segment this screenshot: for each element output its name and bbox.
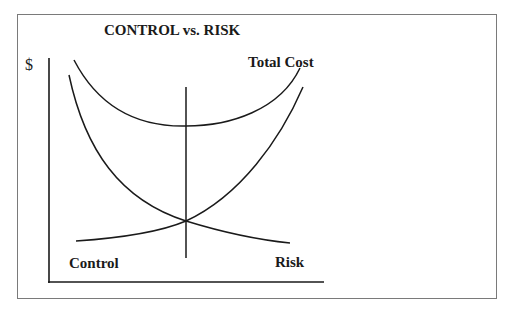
risk-curve — [69, 75, 290, 243]
diagram-title: CONTROL vs. RISK — [104, 22, 241, 38]
control-label: Control — [69, 255, 119, 271]
risk-label: Risk — [275, 254, 305, 270]
control-curve — [76, 87, 303, 241]
control-vs-risk-diagram: CONTROL vs. RISK $ Total Cost Control Ri… — [0, 0, 510, 312]
total-cost-label: Total Cost — [248, 54, 314, 70]
y-axis-label: $ — [25, 56, 33, 73]
